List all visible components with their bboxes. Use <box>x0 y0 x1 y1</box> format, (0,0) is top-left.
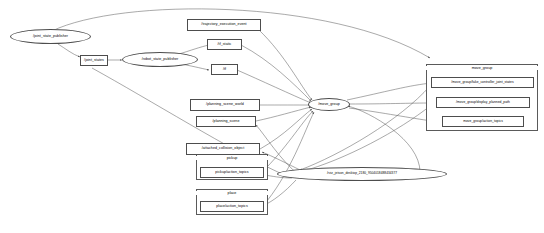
topic-tf-static[interactable]: /tf_static <box>207 39 242 50</box>
cluster-move-group-label: move_group <box>426 66 538 70</box>
topic-place-action-topics[interactable]: place/action_topics <box>200 201 264 212</box>
topic-move-group-action-topics[interactable]: move_group/action_topics <box>442 116 524 127</box>
topic-planning-scene-world[interactable]: /planning_scene_world <box>190 99 260 111</box>
topic-move-group-display-planned-path[interactable]: /move_group/display_planned_path <box>436 97 530 108</box>
topic-planning-scene[interactable]: /planning_scene <box>196 116 256 127</box>
topic-trajectory-execution-event[interactable]: /trajectory_execution_event <box>187 19 261 31</box>
topic-move-group-fake-controller-joint-states[interactable]: /move_group/fake_controller_joint_states <box>431 77 534 88</box>
topic-pickup-action-topics[interactable]: pickup/action_topics <box>200 167 264 178</box>
topic-tf[interactable]: /tf <box>211 64 238 75</box>
topic-attached-collision-object[interactable]: /attached_collision_object <box>186 143 260 155</box>
rqt-graph-canvas[interactable]: move_group pickup place /joint_state_pub… <box>0 0 544 233</box>
cluster-pickup-label: pickup <box>196 156 268 160</box>
node-robot-state-publisher[interactable]: /robot_state_publisher <box>122 52 198 67</box>
node-rviz[interactable]: /rviz_jetson_desktop_2180_95040184884343… <box>277 167 447 181</box>
node-move-group[interactable]: /move_group <box>308 98 350 111</box>
cluster-place-label: place <box>196 191 268 195</box>
topic-joint-states[interactable]: /joint_states <box>80 55 108 66</box>
node-joint-state-publisher[interactable]: /joint_state_publisher <box>10 29 91 44</box>
